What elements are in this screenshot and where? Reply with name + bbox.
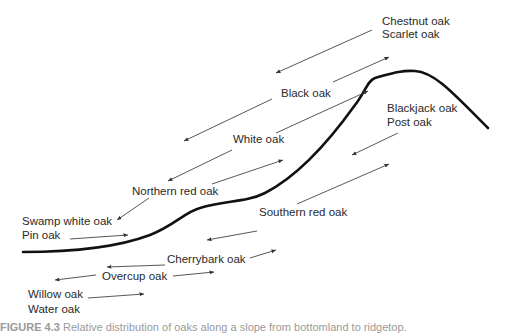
label-water-oak: Water oak [28, 303, 80, 316]
arrow-icon [207, 231, 257, 240]
arrow-icon [55, 275, 96, 280]
label-post-oak: Post oak [387, 116, 432, 129]
arrow-icon [212, 160, 283, 184]
arrow-icon [250, 250, 276, 258]
arrow-icon [352, 133, 398, 155]
label-white-oak: White oak [233, 133, 284, 146]
label-willow-oak: Willow oak [28, 288, 83, 301]
arrow-icon [107, 265, 165, 267]
label-swamp-white-oak: Swamp white oak [22, 215, 112, 228]
label-chestnut-oak: Chestnut oak [382, 15, 450, 28]
arrow-icon [173, 272, 214, 276]
label-overcup-oak: Overcup oak [102, 270, 167, 283]
arrow-icon [168, 150, 232, 181]
figure-caption: FIGURE 4.3 Relative distribution of oaks… [0, 321, 407, 333]
label-black-oak: Black oak [281, 87, 331, 100]
label-pin-oak: Pin oak [22, 229, 60, 242]
arrow-icon [276, 30, 372, 73]
figure-caption-text: Relative distribution of oaks along a sl… [63, 321, 407, 333]
arrow-icon [70, 235, 128, 239]
arrow-icon [333, 57, 389, 82]
label-scarlet-oak: Scarlet oak [382, 28, 440, 41]
label-cherrybark-oak: Cherrybark oak [167, 253, 246, 266]
arrow-icon [297, 164, 389, 204]
label-southern-red-oak: Southern red oak [259, 206, 347, 219]
label-northern-red-oak: Northern red oak [132, 185, 218, 198]
label-blackjack-oak: Blackjack oak [387, 102, 457, 115]
figure-caption-label: FIGURE 4.3 [0, 321, 60, 333]
arrow-icon [88, 294, 144, 298]
arrow-icon [117, 198, 149, 220]
